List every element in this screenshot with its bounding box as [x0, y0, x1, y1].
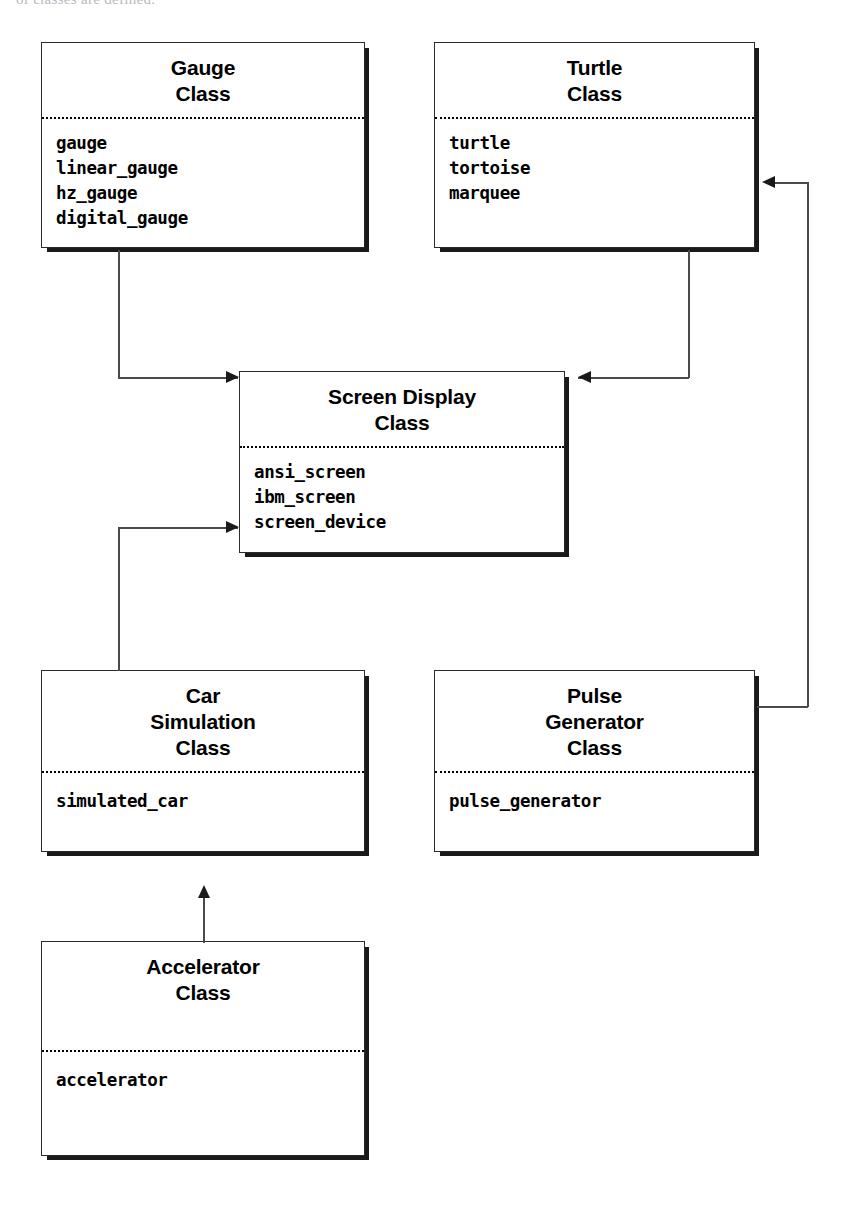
arrowhead-right-icon — [226, 521, 239, 533]
class-divider-car-simulation — [42, 771, 364, 773]
connector-segment-vertical — [118, 250, 120, 378]
class-title-gauge: Gauge Class — [42, 43, 364, 107]
class-member: pulse_generator — [449, 789, 748, 814]
diagram-canvas: of classes are defined. Gauge Class gaug… — [0, 0, 845, 1220]
class-box-turtle[interactable]: Turtle Class turtle tortoise marquee — [434, 42, 755, 248]
connector-segment-horizontal — [757, 706, 808, 708]
cut-off-header-text: of classes are defined. — [16, 0, 436, 5]
connector-segment-vertical — [118, 527, 120, 671]
class-member: accelerator — [56, 1068, 358, 1093]
class-title-line: Class — [42, 81, 364, 107]
arrowhead-up-icon — [198, 885, 210, 898]
arrowhead-left-icon — [762, 176, 775, 188]
class-title-turtle: Turtle Class — [435, 43, 754, 107]
class-members-pulse-generator: pulse_generator — [449, 789, 748, 814]
connector-segment-horizontal — [578, 377, 689, 379]
class-divider-accelerator — [42, 1050, 364, 1052]
connector-segment-vertical — [688, 250, 690, 378]
arrowhead-right-icon — [226, 371, 239, 383]
connector-segment-horizontal — [118, 377, 238, 379]
class-divider-screen-display — [240, 446, 564, 448]
connector-segment-vertical — [203, 897, 205, 943]
class-member: screen_device — [254, 510, 558, 535]
class-box-pulse-generator[interactable]: Pulse Generator Class pulse_generator — [434, 670, 755, 852]
class-members-turtle: turtle tortoise marquee — [449, 131, 748, 206]
class-title-line: Turtle — [435, 55, 754, 81]
connector-segment-horizontal — [118, 527, 238, 529]
class-title-line: Class — [42, 735, 364, 761]
class-title-line: Gauge — [42, 55, 364, 81]
connector-segment-vertical — [807, 182, 809, 707]
class-title-line: Class — [42, 980, 364, 1006]
class-title-line: Class — [435, 735, 754, 761]
class-title-line: Car — [42, 683, 364, 709]
class-member: digital_gauge — [56, 206, 358, 231]
class-member: ansi_screen — [254, 460, 558, 485]
class-title-accelerator: Accelerator Class — [42, 942, 364, 1006]
class-member: marquee — [449, 181, 748, 206]
class-title-line: Generator — [435, 709, 754, 735]
class-title-line: Pulse — [435, 683, 754, 709]
class-title-screen-display: Screen Display Class — [240, 372, 564, 436]
class-members-gauge: gauge linear_gauge hz_gauge digital_gaug… — [56, 131, 358, 231]
class-title-line: Class — [240, 410, 564, 436]
class-title-car-simulation: Car Simulation Class — [42, 671, 364, 761]
class-title-line: Simulation — [42, 709, 364, 735]
class-divider-gauge — [42, 117, 364, 119]
class-member: gauge — [56, 131, 358, 156]
class-member: hz_gauge — [56, 181, 358, 206]
class-members-car-simulation: simulated_car — [56, 789, 358, 814]
class-title-line: Accelerator — [42, 954, 364, 980]
class-member: linear_gauge — [56, 156, 358, 181]
class-title-line: Screen Display — [240, 384, 564, 410]
class-divider-turtle — [435, 117, 754, 119]
class-member: ibm_screen — [254, 485, 558, 510]
class-member: simulated_car — [56, 789, 358, 814]
class-members-screen-display: ansi_screen ibm_screen screen_device — [254, 460, 558, 535]
class-box-accelerator[interactable]: Accelerator Class accelerator — [41, 941, 365, 1156]
class-title-pulse-generator: Pulse Generator Class — [435, 671, 754, 761]
class-title-line: Class — [435, 81, 754, 107]
class-divider-pulse-generator — [435, 771, 754, 773]
class-box-screen-display[interactable]: Screen Display Class ansi_screen ibm_scr… — [239, 371, 565, 553]
connector-segment-horizontal — [770, 182, 808, 184]
class-members-accelerator: accelerator — [56, 1068, 358, 1093]
class-box-car-simulation[interactable]: Car Simulation Class simulated_car — [41, 670, 365, 852]
class-member: turtle — [449, 131, 748, 156]
class-box-gauge[interactable]: Gauge Class gauge linear_gauge hz_gauge … — [41, 42, 365, 248]
arrowhead-left-icon — [578, 371, 591, 383]
class-member: tortoise — [449, 156, 748, 181]
